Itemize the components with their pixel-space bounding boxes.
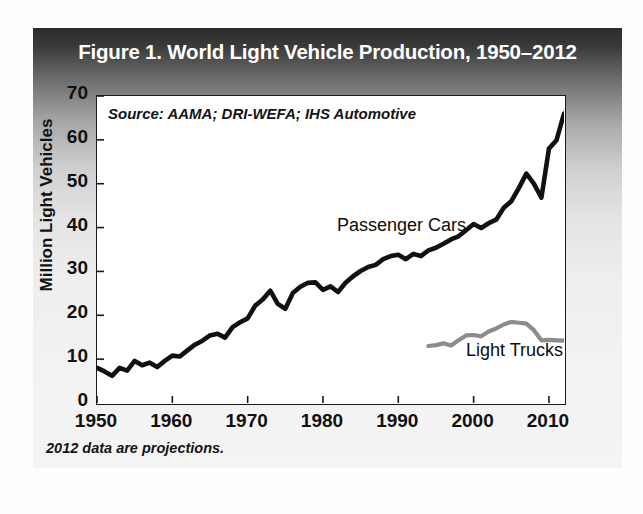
series-label-light-trucks: Light Trucks [466, 340, 563, 361]
y-tick-30: 30 [42, 257, 88, 279]
y-tick-60: 60 [42, 126, 88, 148]
series-line-passenger-cars [97, 114, 564, 376]
x-tick-1950: 1950 [56, 410, 136, 432]
x-tick-1980: 1980 [282, 410, 362, 432]
source-note: Source: AAMA; DRI-WEFA; IHS Automotive [108, 105, 416, 122]
y-tick-20: 20 [42, 301, 88, 323]
y-tick-0: 0 [42, 389, 88, 411]
x-tick-1990: 1990 [357, 410, 437, 432]
y-tick-50: 50 [42, 170, 88, 192]
figure-footnote: 2012 data are projections. [46, 440, 224, 456]
x-tick-2010: 2010 [508, 410, 588, 432]
x-tick-1960: 1960 [131, 410, 211, 432]
figure-container: Figure 1. World Light Vehicle Production… [0, 0, 643, 514]
x-tick-2000: 2000 [433, 410, 513, 432]
y-tick-10: 10 [42, 345, 88, 367]
plot-wrapper: Million Light Vehicles 010203040506070 1… [0, 0, 643, 514]
series-label-passenger-cars: Passenger Cars [337, 215, 466, 236]
x-tick-1970: 1970 [207, 410, 287, 432]
y-tick-40: 40 [42, 214, 88, 236]
y-tick-70: 70 [42, 82, 88, 104]
